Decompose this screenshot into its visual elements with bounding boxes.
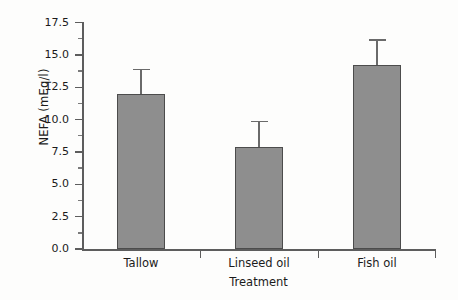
- y-tick-major: [75, 119, 82, 120]
- y-tick-label: 0.0: [29, 243, 69, 254]
- x-category-label: Fish oil: [322, 256, 432, 270]
- y-tick-major: [75, 54, 82, 55]
- y-tick-label: 12.5: [29, 81, 69, 92]
- y-tick-minor: [78, 135, 82, 136]
- error-bar-stem: [376, 39, 377, 65]
- bar: Fish oil: 14.2: [353, 65, 401, 249]
- bar: Tallow: 12: [117, 94, 165, 249]
- y-axis-label: NEFA (mEq/l): [37, 17, 51, 197]
- y-tick-label: 5.0: [29, 178, 69, 189]
- error-bar-stem: [140, 69, 141, 94]
- y-tick-minor: [78, 70, 82, 71]
- y-tick-label: 10.0: [29, 114, 69, 125]
- x-axis-label: Treatment: [82, 275, 435, 289]
- y-tick-major: [75, 87, 82, 88]
- error-bar-cap: [133, 69, 150, 70]
- y-tick-minor: [78, 38, 82, 39]
- x-axis-line: [82, 249, 436, 251]
- y-tick-major: [75, 151, 82, 152]
- y-tick-major: [75, 248, 82, 249]
- y-tick-label: 15.0: [29, 49, 69, 60]
- y-tick-minor: [78, 167, 82, 168]
- error-bar-stem: [258, 121, 259, 147]
- error-bar-cap: [251, 121, 268, 122]
- bar-chart-figure: NEFA (mEq/l) Treatment 0.02.55.07.510.01…: [0, 0, 458, 300]
- y-tick-minor: [78, 232, 82, 233]
- bar-value: Fish oil: 14.2: [354, 66, 355, 67]
- y-tick-minor: [78, 200, 82, 201]
- y-tick-major: [75, 184, 82, 185]
- y-tick-major: [75, 216, 82, 217]
- bar-value: Tallow: 12: [118, 95, 119, 96]
- x-tick-end: [435, 250, 436, 258]
- bar-value: Linseed oil: 7.9: [236, 148, 237, 149]
- bar: Linseed oil: 7.9: [235, 147, 283, 249]
- y-tick-label: 7.5: [29, 146, 69, 157]
- y-tick-minor: [78, 103, 82, 104]
- x-tick: [318, 250, 319, 258]
- x-category-label: Tallow: [86, 256, 196, 270]
- y-tick-label: 2.5: [29, 211, 69, 222]
- y-tick-label: 17.5: [29, 17, 69, 28]
- y-axis-line: [82, 22, 84, 250]
- error-bar-cap: [369, 39, 386, 40]
- x-category-label: Linseed oil: [204, 256, 314, 270]
- y-tick-major: [75, 22, 82, 23]
- x-tick: [200, 250, 201, 258]
